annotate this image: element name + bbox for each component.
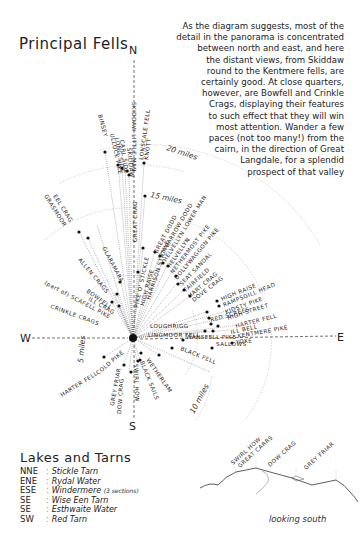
lake-name: Windermere	[52, 486, 101, 495]
lake-name: Stickle Tarn	[52, 467, 98, 476]
lake-note: (3 sections)	[104, 487, 139, 494]
lake-name: Red Tarn	[52, 515, 87, 524]
ring-label-10: 10 miles	[188, 382, 211, 414]
compass-north: N	[129, 44, 137, 57]
fell-label-harter-fell-w: HARTER FELL	[59, 370, 99, 398]
compass-east: E	[337, 331, 344, 344]
lakes-legend: Lakes and Tarns NNE:Stickle Tarn ENE:Ryd…	[20, 450, 139, 525]
lake-name: Esthwaite Water	[52, 505, 117, 514]
summit-marker	[129, 334, 137, 342]
fell-label-glaramara: GLARAMARA	[101, 246, 125, 284]
profile-label-dow-crag: DOW CRAG	[267, 439, 298, 467]
lake-row: SE:Wise Een Tarn	[20, 496, 139, 506]
fell-label-wansfell-pike: WANSFELL PIKE	[186, 334, 236, 340]
lake-name: Wise Een Tarn	[52, 496, 109, 505]
fell-label-loughrigg: LOUGHRIGG	[150, 323, 189, 329]
lake-row: SW:Red Tarn	[20, 515, 139, 525]
lake-name: Rydal Water	[52, 477, 101, 486]
fell-label-great-crag: GREAT CRAG	[132, 201, 138, 242]
compass-west: W	[20, 332, 31, 345]
profile-label-grey-friar: GREY FRIAR	[303, 441, 336, 471]
ring-label-15: 15 miles	[150, 190, 183, 205]
fell-label-sallows-2: SALLOWS	[216, 341, 247, 347]
lake-row: ESE:Windermere (3 sections)	[20, 486, 139, 496]
fell-label-allen-crags: ALLEN CRAGS	[77, 257, 110, 295]
lakes-heading: Lakes and Tarns	[20, 450, 139, 465]
lake-direction: SW	[20, 515, 46, 525]
ring-label-20: 20 miles	[165, 143, 198, 161]
fell-markers	[77, 150, 233, 373]
compass-south: S	[129, 420, 136, 433]
fell-label-binsey: BINSEY	[97, 114, 109, 138]
ring-label-5: 5 miles	[76, 335, 87, 363]
lake-row: SE:Esthwaite Water	[20, 505, 139, 515]
lake-row: NNE:Stickle Tarn	[20, 467, 139, 477]
profile-caption: looking south	[269, 514, 326, 524]
skyline-profile	[200, 460, 358, 502]
lake-row: ENE:Rydal Water	[20, 477, 139, 487]
